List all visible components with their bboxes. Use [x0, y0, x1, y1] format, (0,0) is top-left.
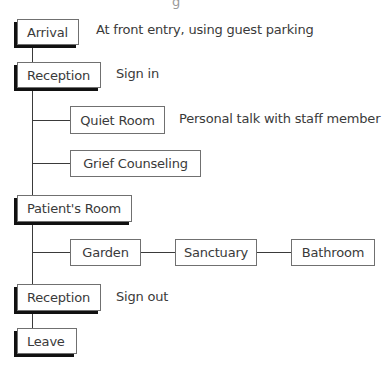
connector-trunk-upper	[32, 87, 33, 197]
connector-quiet-room	[32, 120, 70, 121]
node-reception-sign-out: Reception	[17, 284, 101, 311]
node-label: Reception	[27, 68, 90, 83]
node-sanctuary: Sanctuary	[175, 239, 257, 266]
node-grief-counseling: Grief Counseling	[70, 150, 201, 177]
node-label: Leave	[27, 334, 65, 349]
connector-sanctuary-bathroom	[257, 252, 291, 253]
connector-trunk-lower	[32, 222, 33, 286]
connector-garden-sanctuary	[141, 252, 175, 253]
note-arrival: At front entry, using guest parking	[96, 22, 314, 37]
node-patients-room: Patient's Room	[17, 195, 132, 222]
node-label: Quiet Room	[80, 113, 154, 128]
node-label: Patient's Room	[27, 201, 121, 216]
node-bathroom: Bathroom	[291, 239, 375, 266]
node-garden: Garden	[70, 239, 141, 266]
note-quiet-room: Personal talk with staff member	[179, 111, 380, 126]
note-sign-in: Sign in	[116, 66, 159, 81]
node-arrival: Arrival	[17, 19, 79, 45]
node-label: Reception	[27, 290, 90, 305]
node-label: Bathroom	[302, 245, 364, 260]
node-quiet-room: Quiet Room	[70, 106, 165, 134]
node-reception-sign-in: Reception	[17, 62, 101, 88]
connector-arrival-reception	[32, 44, 33, 64]
node-label: Grief Counseling	[83, 156, 188, 171]
node-label: Arrival	[27, 25, 68, 40]
connector-garden	[32, 252, 70, 253]
node-label: Garden	[82, 245, 128, 260]
flow-diagram: g Arrival At front entry, using guest pa…	[0, 0, 385, 374]
cropped-title-fragment: g	[172, 0, 180, 9]
node-leave: Leave	[17, 328, 77, 354]
node-label: Sanctuary	[184, 245, 248, 260]
note-sign-out: Sign out	[116, 289, 168, 304]
connector-grief-counseling	[32, 163, 70, 164]
